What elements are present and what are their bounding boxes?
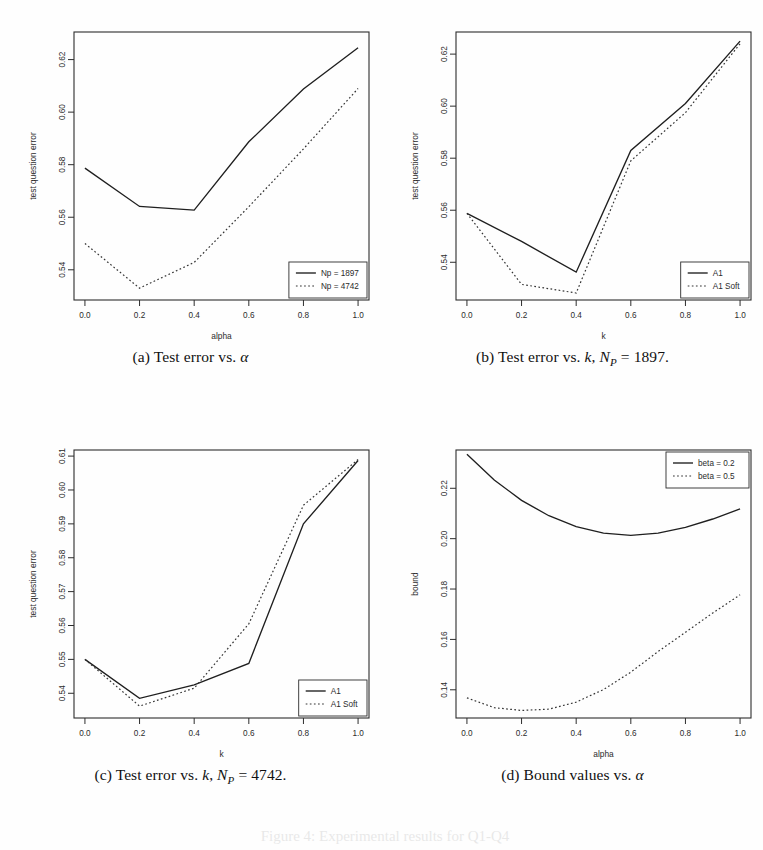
legend-label-d-1: beta = 0.5 bbox=[698, 472, 735, 481]
x-axis-label-b: k bbox=[601, 331, 606, 341]
y-tick-label-c-3: 0.57 bbox=[58, 583, 67, 599]
caption-eq-c: = bbox=[238, 766, 247, 783]
x-axis-label-a: alpha bbox=[211, 331, 232, 341]
y-tick-label-c-1: 0.55 bbox=[58, 651, 67, 667]
plot-svg-a: 0.00.20.40.60.81.00.540.560.580.600.62al… bbox=[0, 0, 381, 345]
series-line-a-0 bbox=[85, 48, 358, 210]
x-tick-label-a-4: 0.8 bbox=[298, 311, 310, 320]
series-line-b-0 bbox=[467, 41, 740, 272]
caption-suffix-b: 1897. bbox=[634, 348, 669, 365]
caption-np-sub-c: P bbox=[228, 774, 235, 786]
y-axis-label-a: test question error bbox=[28, 132, 38, 200]
caption-prefix-d: (d) bbox=[501, 766, 519, 783]
x-tick-label-c-2: 0.4 bbox=[188, 729, 200, 738]
y-tick-label-b-3: 0.60 bbox=[440, 98, 449, 114]
caption-prefix-b: (b) bbox=[476, 348, 494, 365]
caption-np-sub-b: P bbox=[610, 356, 617, 368]
y-tick-label-d-2: 0.18 bbox=[440, 581, 449, 597]
panel-caption-b: (b) Test error vs. k, NP = 1897. bbox=[382, 348, 763, 368]
y-tick-label-d-1: 0.16 bbox=[440, 631, 449, 647]
y-tick-label-c-2: 0.56 bbox=[58, 617, 67, 633]
caption-text-c: Test error vs. bbox=[116, 766, 199, 783]
panel-caption-a: (a) Test error vs. α bbox=[0, 348, 381, 366]
caption-np-var-b: N bbox=[600, 348, 610, 365]
x-tick-label-c-5: 1.0 bbox=[352, 729, 364, 738]
caption-symbol-a: α bbox=[240, 348, 248, 365]
y-tick-label-b-4: 0.62 bbox=[440, 46, 449, 62]
x-tick-label-d-2: 0.4 bbox=[570, 729, 582, 738]
caption-prefix-a: (a) bbox=[133, 348, 151, 365]
legend-label-a-0: Np = 1897 bbox=[321, 269, 359, 278]
series-line-c-1 bbox=[85, 459, 358, 706]
x-tick-label-a-1: 0.2 bbox=[134, 311, 146, 320]
panel-caption-d: (d) Bound values vs. α bbox=[382, 766, 763, 784]
series-line-c-0 bbox=[85, 461, 358, 699]
legend-label-b-1: A1 Soft bbox=[713, 282, 741, 291]
x-tick-label-b-3: 0.6 bbox=[625, 311, 637, 320]
caption-comma-c: , bbox=[209, 766, 213, 783]
caption-text-d: Bound values vs. bbox=[524, 766, 632, 783]
figure-panel-d: 0.00.20.40.60.81.00.140.160.180.200.22al… bbox=[382, 418, 763, 808]
legend-label-d-0: beta = 0.2 bbox=[698, 459, 735, 468]
legend-box-c bbox=[299, 680, 367, 716]
caption-symbol-d: α bbox=[636, 766, 644, 783]
x-tick-label-b-5: 1.0 bbox=[734, 311, 746, 320]
y-axis-label-c: test question error bbox=[28, 550, 38, 618]
y-tick-label-c-5: 0.59 bbox=[58, 515, 67, 531]
y-tick-label-b-2: 0.58 bbox=[440, 150, 449, 166]
x-tick-label-c-4: 0.8 bbox=[298, 729, 310, 738]
plot-frame-c bbox=[74, 450, 369, 718]
x-tick-label-a-0: 0.0 bbox=[79, 311, 91, 320]
caption-np-var-c: N bbox=[217, 766, 227, 783]
y-tick-label-d-3: 0.20 bbox=[440, 530, 449, 546]
y-tick-label-c-4: 0.58 bbox=[58, 549, 67, 565]
x-tick-label-a-2: 0.4 bbox=[188, 311, 200, 320]
plot-frame-d bbox=[456, 450, 751, 718]
caption-eq-b: = bbox=[621, 348, 630, 365]
figure-sheet: 0.00.20.40.60.81.00.540.560.580.600.62al… bbox=[0, 0, 763, 850]
plot-svg-b: 0.00.20.40.60.81.00.540.560.580.600.62kt… bbox=[382, 0, 763, 345]
x-axis-label-d: alpha bbox=[593, 749, 614, 759]
y-tick-label-c-6: 0.60 bbox=[58, 482, 67, 498]
y-tick-label-a-4: 0.62 bbox=[58, 51, 67, 67]
x-tick-label-c-3: 0.6 bbox=[243, 729, 255, 738]
x-tick-label-c-0: 0.0 bbox=[79, 729, 91, 738]
legend-label-c-0: A1 bbox=[331, 687, 341, 696]
y-axis-label-b: test question error bbox=[410, 132, 420, 200]
x-tick-label-b-1: 0.2 bbox=[516, 311, 528, 320]
series-line-a-1 bbox=[85, 88, 358, 288]
y-tick-label-b-0: 0.54 bbox=[440, 254, 449, 270]
plot-area-c: 0.00.20.40.60.81.00.540.550.560.570.580.… bbox=[0, 418, 381, 763]
series-line-b-1 bbox=[467, 44, 740, 293]
x-tick-label-d-1: 0.2 bbox=[516, 729, 528, 738]
caption-text-a: Test error vs. bbox=[154, 348, 237, 365]
caption-text-b: Test error vs. bbox=[498, 348, 581, 365]
plot-area-b: 0.00.20.40.60.81.00.540.560.580.600.62kt… bbox=[382, 0, 763, 345]
x-axis-label-c: k bbox=[219, 749, 224, 759]
legend-box-a bbox=[289, 262, 367, 298]
figure-panel-b: 0.00.20.40.60.81.00.540.560.580.600.62kt… bbox=[382, 0, 763, 390]
x-tick-label-b-4: 0.8 bbox=[680, 311, 692, 320]
figure-panel-c: 0.00.20.40.60.81.00.540.550.560.570.580.… bbox=[0, 418, 381, 808]
y-tick-label-d-4: 0.22 bbox=[440, 480, 449, 496]
plot-svg-c: 0.00.20.40.60.81.00.540.550.560.570.580.… bbox=[0, 418, 381, 763]
plot-svg-d: 0.00.20.40.60.81.00.140.160.180.200.22al… bbox=[382, 418, 763, 763]
y-tick-label-a-3: 0.60 bbox=[58, 104, 67, 120]
legend-label-c-1: A1 Soft bbox=[331, 700, 359, 709]
x-tick-label-d-3: 0.6 bbox=[625, 729, 637, 738]
caption-suffix-c: 4742. bbox=[251, 766, 286, 783]
y-tick-label-c-7: 0.61 bbox=[58, 448, 67, 464]
y-tick-label-a-0: 0.54 bbox=[58, 261, 67, 277]
legend-label-a-1: Np = 4742 bbox=[321, 282, 359, 291]
y-axis-label-d: bound bbox=[410, 572, 420, 596]
plot-area-a: 0.00.20.40.60.81.00.540.560.580.600.62al… bbox=[0, 0, 381, 345]
panel-caption-c: (c) Test error vs. k, NP = 4742. bbox=[0, 766, 381, 786]
y-tick-label-c-0: 0.54 bbox=[58, 685, 67, 701]
y-tick-label-a-2: 0.58 bbox=[58, 156, 67, 172]
x-tick-label-d-5: 1.0 bbox=[734, 729, 746, 738]
legend-label-b-0: A1 bbox=[713, 269, 723, 278]
y-tick-label-a-1: 0.56 bbox=[58, 209, 67, 225]
caption-comma-b: , bbox=[592, 348, 596, 365]
plot-frame-b bbox=[456, 32, 751, 300]
figure-panel-a: 0.00.20.40.60.81.00.540.560.580.600.62al… bbox=[0, 0, 381, 390]
